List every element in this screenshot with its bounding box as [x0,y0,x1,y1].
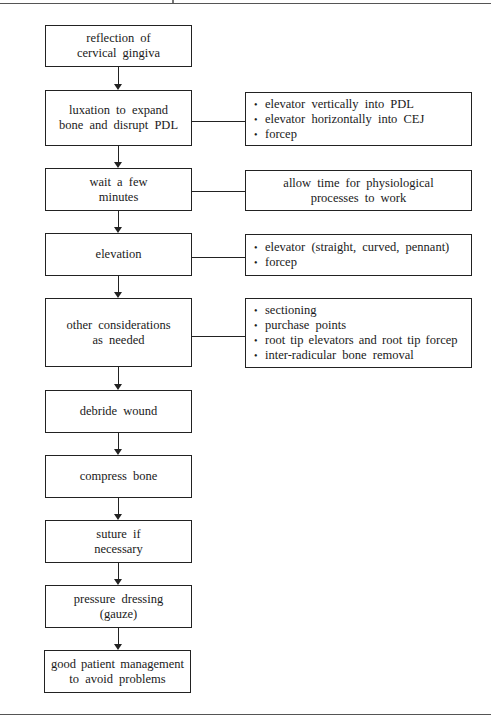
step-text: compress bone [80,469,158,484]
note-luxation: elevator vertically into PDL elevator ho… [245,92,472,146]
step-text: other considerations [66,318,170,333]
step-text: minutes [89,190,147,205]
step-elevation: elevation [45,233,192,276]
connector-h [192,121,245,122]
note-item: elevator horizontally into CEJ [254,112,424,127]
step-text: luxation to expand [59,103,178,118]
step-reflection: reflection ofcervical gingiva [45,25,192,67]
step-text: reflection of [77,31,160,46]
note-other-considerations: sectioning purchase points root tip elev… [245,298,472,368]
step-text: to avoid problems [51,672,184,687]
note-list: elevator vertically into PDL elevator ho… [254,97,424,142]
note-item: root tip elevators and root tip forcep [254,333,458,348]
note-item: elevator (straight, curved, pennant) [254,240,449,255]
connector-h [192,257,245,258]
step-text: necessary [94,542,143,557]
step-text: as needed [66,333,170,348]
note-item: forcep [254,127,424,142]
note-list: elevator (straight, curved, pennant) for… [254,240,449,270]
step-text: bone and disrupt PDL [59,118,178,133]
step-text: pressure dressing [74,592,163,607]
note-item: purchase points [254,318,458,333]
step-debride: debride wound [45,390,192,433]
note-list: sectioning purchase points root tip elev… [254,303,458,363]
step-text: elevation [96,247,142,262]
note-item: inter-radicular bone removal [254,348,458,363]
step-luxation: luxation to expandbone and disrupt PDL [45,90,192,146]
note-text: processes to work [283,191,433,206]
bottom-rule [0,714,491,715]
note-item: elevator vertically into PDL [254,97,424,112]
step-text: debride wound [80,404,158,419]
step-text: wait a few [89,175,147,190]
step-other-considerations: other considerationsas needed [45,298,192,367]
header-fragment [172,0,174,3]
step-pressure-dressing: pressure dressing(gauze) [45,585,192,628]
note-item: sectioning [254,303,458,318]
step-text: cervical gingiva [77,46,160,61]
connector-h [192,336,245,337]
step-compress: compress bone [45,455,192,498]
connector-h [192,191,245,192]
note-wait: allow time for physiologicalprocesses to… [245,170,472,211]
step-text: suture if [94,527,143,542]
step-text: good patient management [51,657,184,672]
top-rule [0,3,491,4]
step-text: (gauze) [74,607,163,622]
note-item: forcep [254,255,449,270]
note-text: allow time for physiological [283,176,433,191]
step-wait: wait a fewminutes [45,168,192,211]
note-elevation: elevator (straight, curved, pennant) for… [245,234,472,276]
step-patient-management: good patient managementto avoid problems [44,650,191,693]
step-suture: suture ifnecessary [45,520,192,563]
